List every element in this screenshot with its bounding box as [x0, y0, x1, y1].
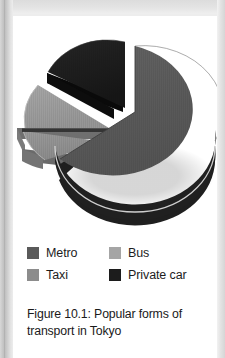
legend-item-taxi[interactable]: Taxi [27, 269, 109, 282]
legend-swatch-metro [27, 247, 39, 259]
scan-top-band [0, 0, 225, 14]
book-gutter [0, 0, 13, 358]
figure-caption: Figure 10.1: Popular forms of transport … [27, 306, 215, 340]
legend-label-taxi: Taxi [46, 269, 68, 282]
legend-row: Metro Bus [27, 242, 217, 264]
chart-legend: Metro Bus Taxi Private car [27, 242, 217, 286]
pie-chart-svg [13, 36, 217, 226]
figure-container: Metro Bus Taxi Private car Fi [13, 14, 217, 358]
legend-item-bus[interactable]: Bus [109, 247, 209, 260]
legend-item-metro[interactable]: Metro [27, 247, 109, 260]
legend-swatch-bus [109, 247, 121, 259]
figure-caption-line-2: transport in Tokyo [27, 324, 121, 338]
legend-row: Taxi Private car [27, 264, 217, 286]
figure-caption-line-1: Figure 10.1: Popular forms of [27, 307, 182, 321]
book-gutter-crease [4, 0, 5, 358]
legend-swatch-private-car [109, 269, 121, 281]
legend-label-bus: Bus [128, 247, 149, 260]
legend-swatch-taxi [27, 269, 39, 281]
scanned-page: Metro Bus Taxi Private car Fi [0, 0, 225, 358]
legend-label-private-car: Private car [128, 269, 187, 282]
page-right-edge [217, 0, 225, 358]
legend-label-metro: Metro [46, 247, 77, 260]
pie-chart [13, 36, 217, 226]
legend-item-private-car[interactable]: Private car [109, 269, 209, 282]
